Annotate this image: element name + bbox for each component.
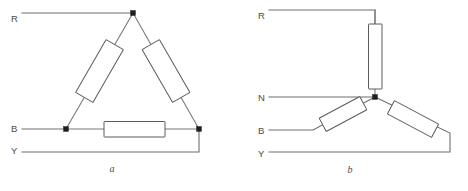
node-bottom-left-a xyxy=(64,127,69,132)
terminal-label-b-a: B xyxy=(11,123,18,134)
terminal-label-r-a: R xyxy=(11,13,18,24)
resistor-left-arm-a xyxy=(76,40,124,103)
terminal-label-y-a: Y xyxy=(11,145,18,156)
diagram-a-group: R B Y a xyxy=(11,11,201,174)
figure-caption-b: b xyxy=(348,164,353,175)
supply-line-r-b xyxy=(269,10,375,24)
circuit-diagram-figure: R B Y a xyxy=(0,0,468,191)
node-bottom-right-a xyxy=(197,127,202,132)
terminal-label-y-b: Y xyxy=(258,148,265,159)
resistor-vertical-b xyxy=(369,24,383,89)
terminal-label-n-b: N xyxy=(258,92,265,103)
figure-caption-a: a xyxy=(110,163,115,174)
terminal-label-r-b: R xyxy=(258,10,265,21)
diagram-b-group: R N B Y b xyxy=(258,10,450,175)
diagram-canvas: R B Y a xyxy=(0,0,468,191)
resistor-right-arm-a xyxy=(142,40,190,103)
terminal-label-b-b: B xyxy=(258,125,265,136)
resistor-lower-right-b xyxy=(387,101,438,138)
resistor-lower-left-b xyxy=(319,97,367,132)
resistor-bottom-arm-a xyxy=(104,122,165,138)
node-apex-a xyxy=(131,11,136,16)
node-star-point-b xyxy=(373,95,378,100)
